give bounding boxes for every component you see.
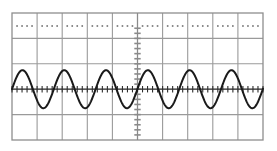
dot-marker bbox=[31, 25, 33, 27]
dot-marker bbox=[71, 25, 73, 27]
dot-marker bbox=[172, 25, 174, 27]
dot-marker bbox=[81, 25, 83, 27]
dot-marker bbox=[147, 25, 149, 27]
dot-marker bbox=[107, 25, 109, 27]
dot-marker bbox=[152, 25, 154, 27]
dot-marker bbox=[97, 25, 99, 27]
dot-marker bbox=[227, 25, 229, 27]
dot-marker bbox=[157, 25, 159, 27]
dot-marker bbox=[132, 25, 134, 27]
dot-marker bbox=[232, 25, 234, 27]
dot-marker bbox=[51, 25, 53, 27]
dot-marker bbox=[182, 25, 184, 27]
dot-marker bbox=[16, 25, 18, 27]
dot-marker bbox=[41, 25, 43, 27]
dot-marker bbox=[217, 25, 219, 27]
dot-marker bbox=[122, 25, 124, 27]
dot-marker bbox=[142, 25, 144, 27]
dot-marker bbox=[167, 25, 169, 27]
dot-marker bbox=[92, 25, 94, 27]
dot-marker bbox=[117, 25, 119, 27]
dot-marker bbox=[252, 25, 254, 27]
dot-marker bbox=[257, 25, 259, 27]
dot-marker bbox=[102, 25, 104, 27]
oscilloscope-figure bbox=[0, 0, 277, 151]
dot-marker bbox=[242, 25, 244, 27]
dot-marker bbox=[26, 25, 28, 27]
dot-marker bbox=[197, 25, 199, 27]
dot-marker bbox=[56, 25, 58, 27]
dot-marker bbox=[46, 25, 48, 27]
dot-marker bbox=[21, 25, 23, 27]
dot-marker bbox=[202, 25, 204, 27]
dot-marker bbox=[76, 25, 78, 27]
dot-marker bbox=[222, 25, 224, 27]
dot-marker bbox=[177, 25, 179, 27]
dot-marker bbox=[247, 25, 249, 27]
dot-marker bbox=[127, 25, 129, 27]
oscilloscope-canvas bbox=[0, 0, 277, 151]
dot-marker bbox=[66, 25, 68, 27]
dot-marker bbox=[192, 25, 194, 27]
dot-marker bbox=[207, 25, 209, 27]
